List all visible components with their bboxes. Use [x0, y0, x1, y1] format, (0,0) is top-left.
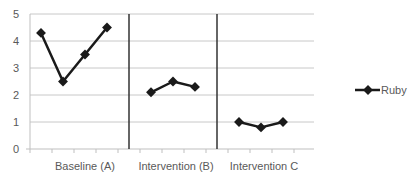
data-point-marker	[146, 87, 156, 97]
data-point-marker	[256, 122, 266, 132]
series-ruby	[36, 23, 288, 133]
y-tick-label: 2	[13, 89, 19, 101]
y-axis-tick-labels: 012345	[13, 8, 19, 155]
chart: 012345 Baseline (A)Intervention (B)Inter…	[0, 0, 419, 182]
series-line	[41, 28, 107, 82]
y-tick-label: 4	[13, 35, 19, 47]
data-point-marker	[190, 82, 200, 92]
legend-label-ruby: Ruby	[381, 84, 407, 96]
y-tick-label: 5	[13, 8, 19, 20]
data-point-marker	[36, 28, 46, 38]
legend: Ruby	[355, 84, 407, 96]
phase-label: Baseline (A)	[55, 160, 115, 172]
data-point-marker	[168, 77, 178, 87]
data-point-marker	[278, 117, 288, 127]
y-tick-label: 0	[13, 143, 19, 155]
y-tick-label: 1	[13, 116, 19, 128]
legend-diamond-marker-icon	[363, 85, 373, 95]
y-tick-label: 3	[13, 62, 19, 74]
phase-label: Intervention C	[230, 160, 299, 172]
phase-labels: Baseline (A)Intervention (B)Intervention…	[55, 160, 298, 172]
phase-label: Intervention (B)	[138, 160, 213, 172]
data-point-marker	[234, 117, 244, 127]
